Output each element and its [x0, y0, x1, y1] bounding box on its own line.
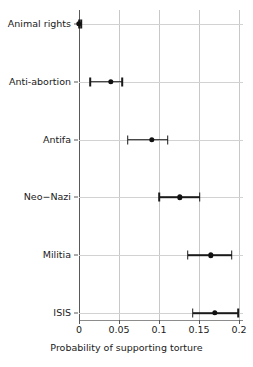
- x-axis-tick-label: 0.1: [151, 325, 166, 335]
- ci-cap-lower: [192, 309, 194, 318]
- ci-cap-upper: [237, 309, 239, 318]
- ci-cap-lower: [89, 77, 91, 86]
- y-axis-category-label: Animal rights: [8, 19, 71, 29]
- gridline-horizontal: [79, 24, 243, 25]
- ci-cap-upper: [167, 135, 169, 144]
- data-point: [108, 79, 113, 84]
- x-axis-title: Probability of supporting torture: [0, 343, 253, 353]
- data-point: [208, 252, 213, 257]
- y-axis-tick: [74, 197, 78, 198]
- y-axis-category-label: Militia: [43, 250, 71, 260]
- ci-cap-lower: [158, 193, 160, 202]
- ci-cap-lower: [187, 251, 189, 260]
- data-point: [212, 310, 217, 315]
- x-axis-tick-label: 0.05: [108, 325, 129, 335]
- dot-plot-figure: Animal rightsAnti-abortionAntifaNeo−Nazi…: [0, 0, 253, 367]
- ci-cap-lower: [127, 135, 129, 144]
- y-axis-tick: [74, 139, 78, 140]
- y-axis-line: [79, 10, 80, 320]
- gridline-vertical: [119, 10, 120, 320]
- y-axis-category-label: Neo−Nazi: [24, 193, 71, 203]
- y-axis-labels: Animal rightsAnti-abortionAntifaNeo−Nazi…: [0, 10, 71, 320]
- gridline-vertical: [159, 10, 160, 320]
- data-point: [149, 137, 154, 142]
- ci-cap-upper: [231, 251, 233, 260]
- x-axis-tick-label: 0: [76, 325, 82, 335]
- y-axis-category-label: ISIS: [53, 308, 71, 318]
- x-axis-tick-labels: 00.050.10.150.2: [79, 325, 243, 339]
- ci-cap-upper: [121, 77, 123, 86]
- x-axis-tick-label: 0.2: [231, 325, 246, 335]
- y-axis-tick: [74, 255, 78, 256]
- plot-area: [79, 10, 243, 320]
- y-axis-category-label: Antifa: [43, 135, 71, 145]
- ci-cap-upper: [199, 193, 201, 202]
- data-point: [177, 195, 182, 200]
- gridline-vertical: [199, 10, 200, 320]
- gridline-vertical: [239, 10, 240, 320]
- confidence-interval-bar: [90, 81, 122, 83]
- y-axis-tick: [74, 81, 78, 82]
- y-axis-tick: [74, 313, 78, 314]
- x-axis-tick-label: 0.15: [188, 325, 209, 335]
- confidence-interval-bar: [128, 139, 168, 141]
- y-axis-category-label: Anti-abortion: [9, 77, 71, 87]
